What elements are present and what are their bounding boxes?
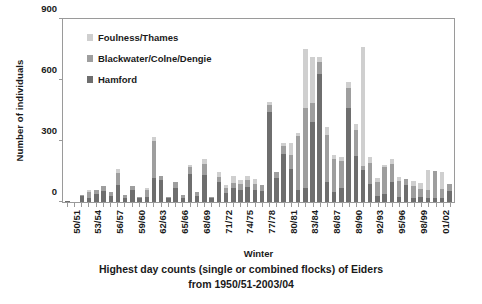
bar-stack[interactable] xyxy=(101,186,105,202)
bar-stack[interactable] xyxy=(173,182,177,202)
bar-stack[interactable] xyxy=(354,124,358,202)
bar-stack[interactable] xyxy=(123,195,127,202)
bar-stack[interactable] xyxy=(87,190,91,202)
bar-slot[interactable] xyxy=(64,19,71,202)
bar-stack[interactable] xyxy=(404,179,408,202)
bar-segment xyxy=(447,191,451,202)
bar-stack[interactable] xyxy=(382,165,386,202)
bar-stack[interactable] xyxy=(137,197,141,202)
bar-slot[interactable] xyxy=(251,19,258,202)
bar-stack[interactable] xyxy=(426,170,430,202)
bar-stack[interactable] xyxy=(289,143,293,202)
legend-item[interactable]: Blackwater/Colne/Dengie xyxy=(87,53,212,64)
bar-slot[interactable] xyxy=(446,19,453,202)
bar-slot[interactable] xyxy=(316,19,323,202)
bar-stack[interactable] xyxy=(159,176,163,202)
bar-segment xyxy=(354,130,358,156)
bar-stack[interactable] xyxy=(375,178,379,202)
bar-segment xyxy=(310,57,314,104)
bar-slot[interactable] xyxy=(388,19,395,202)
bar-stack[interactable] xyxy=(80,195,84,202)
bar-slot[interactable] xyxy=(381,19,388,202)
bar-slot[interactable] xyxy=(410,19,417,202)
bar-stack[interactable] xyxy=(332,155,336,202)
x-label-slot xyxy=(92,209,99,249)
bar-stack[interactable] xyxy=(195,192,199,202)
bar-slot[interactable] xyxy=(71,19,78,202)
bar-stack[interactable] xyxy=(217,172,221,202)
bar-stack[interactable] xyxy=(209,197,213,202)
bar-stack[interactable] xyxy=(310,57,314,202)
bar-slot[interactable] xyxy=(374,19,381,202)
bar-slot[interactable] xyxy=(280,19,287,202)
bar-stack[interactable] xyxy=(188,165,192,202)
bar-segment xyxy=(303,49,307,109)
bar-stack[interactable] xyxy=(109,192,113,202)
bar-stack[interactable] xyxy=(94,190,98,202)
bar-stack[interactable] xyxy=(181,195,185,202)
bar-stack[interactable] xyxy=(411,181,415,202)
bar-stack[interactable] xyxy=(418,183,422,202)
bar-slot[interactable] xyxy=(295,19,302,202)
bar-slot[interactable] xyxy=(78,19,85,202)
bar-stack[interactable] xyxy=(116,169,120,202)
bar-segment xyxy=(209,198,213,202)
bar-slot[interactable] xyxy=(395,19,402,202)
bar-slot[interactable] xyxy=(323,19,330,202)
bar-slot[interactable] xyxy=(237,19,244,202)
bar-slot[interactable] xyxy=(439,19,446,202)
legend-item[interactable]: Foulness/Thames xyxy=(87,32,212,43)
bar-stack[interactable] xyxy=(130,186,134,202)
bar-stack[interactable] xyxy=(202,159,206,202)
bar-stack[interactable] xyxy=(274,172,278,202)
x-axis-tickmark xyxy=(436,203,437,207)
bar-slot[interactable] xyxy=(215,19,222,202)
bar-stack[interactable] xyxy=(296,133,300,202)
bar-slot[interactable] xyxy=(424,19,431,202)
bar-slot[interactable] xyxy=(302,19,309,202)
bar-slot[interactable] xyxy=(431,19,438,202)
bar-stack[interactable] xyxy=(224,185,228,202)
bar-slot[interactable] xyxy=(222,19,229,202)
bar-slot[interactable] xyxy=(273,19,280,202)
bar-stack[interactable] xyxy=(65,201,69,202)
bar-slot[interactable] xyxy=(345,19,352,202)
legend-item[interactable]: Hamford xyxy=(87,74,212,85)
bar-slot[interactable] xyxy=(403,19,410,202)
bar-stack[interactable] xyxy=(145,188,149,202)
bar-slot[interactable] xyxy=(230,19,237,202)
bar-stack[interactable] xyxy=(346,82,350,202)
bar-stack[interactable] xyxy=(433,171,437,203)
bar-slot[interactable] xyxy=(266,19,273,202)
bar-slot[interactable] xyxy=(367,19,374,202)
bar-stack[interactable] xyxy=(397,177,401,202)
bar-stack[interactable] xyxy=(166,197,170,202)
bar-slot[interactable] xyxy=(258,19,265,202)
bar-stack[interactable] xyxy=(267,102,271,202)
bar-stack[interactable] xyxy=(303,49,307,202)
bar-slot[interactable] xyxy=(359,19,366,202)
bar-stack[interactable] xyxy=(440,172,444,202)
bar-segment xyxy=(361,170,365,202)
bar-slot[interactable] xyxy=(287,19,294,202)
bar-stack[interactable] xyxy=(238,180,242,202)
bar-slot[interactable] xyxy=(352,19,359,202)
bar-stack[interactable] xyxy=(390,159,394,202)
bar-stack[interactable] xyxy=(447,184,451,202)
bar-stack[interactable] xyxy=(339,157,343,202)
bar-stack[interactable] xyxy=(317,57,321,202)
bar-slot[interactable] xyxy=(244,19,251,202)
bar-stack[interactable] xyxy=(152,137,156,202)
bar-slot[interactable] xyxy=(331,19,338,202)
bar-slot[interactable] xyxy=(417,19,424,202)
bar-stack[interactable] xyxy=(231,176,235,202)
bar-slot[interactable] xyxy=(309,19,316,202)
bar-stack[interactable] xyxy=(368,157,372,202)
bar-stack[interactable] xyxy=(325,127,329,202)
bar-slot[interactable] xyxy=(338,19,345,202)
bar-stack[interactable] xyxy=(361,47,365,202)
bar-stack[interactable] xyxy=(245,176,249,202)
bar-stack[interactable] xyxy=(281,143,285,202)
bar-stack[interactable] xyxy=(253,179,257,202)
bar-stack[interactable] xyxy=(260,185,264,202)
